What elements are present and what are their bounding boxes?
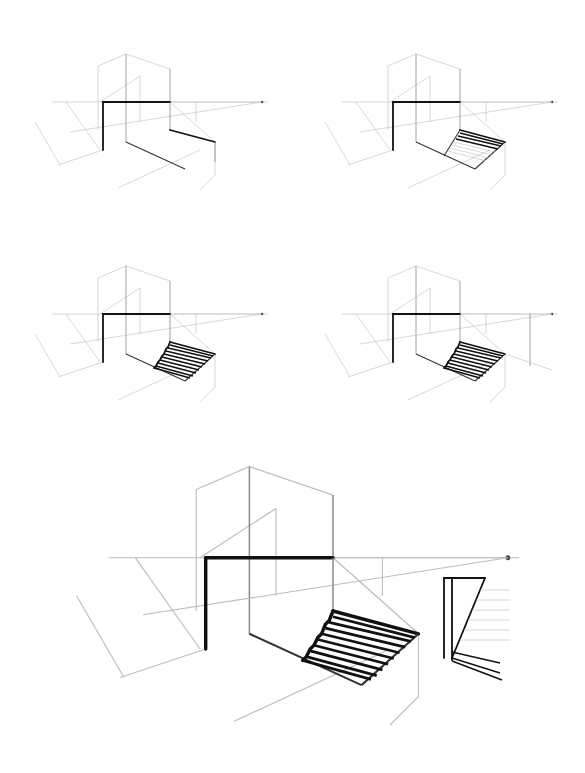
side-stair-view bbox=[444, 578, 510, 680]
panel-step-5 bbox=[77, 467, 520, 725]
perspective-sketch-sheet bbox=[0, 0, 585, 773]
panel-step-2 bbox=[325, 54, 558, 190]
panel-step-3 bbox=[35, 266, 268, 402]
panel-step-4 bbox=[325, 266, 558, 402]
panel-step-1 bbox=[35, 54, 268, 190]
